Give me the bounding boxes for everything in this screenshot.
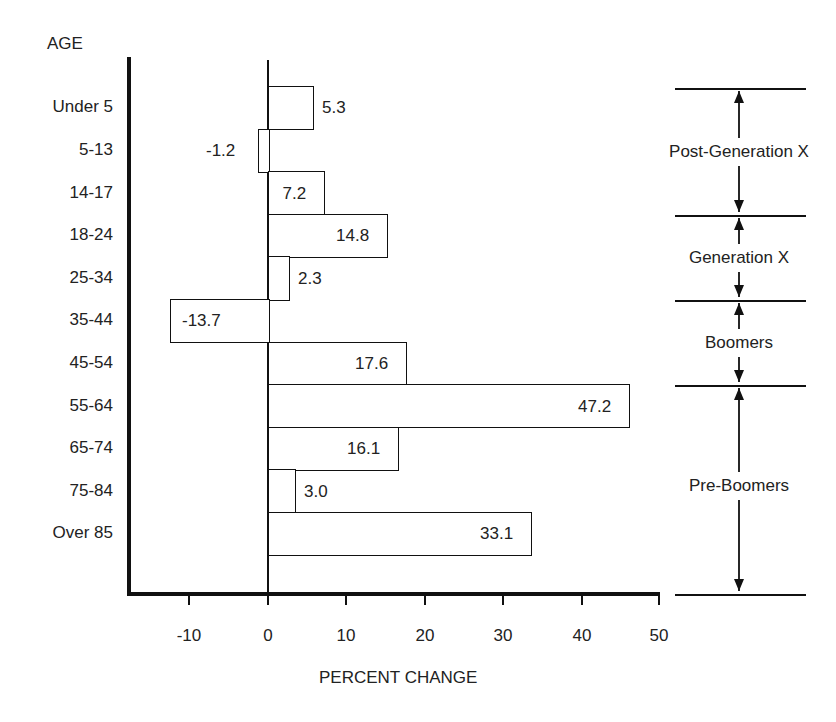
arrow-down-icon bbox=[734, 272, 744, 297]
generation-group-label: Post-Generation X bbox=[654, 143, 824, 160]
generation-group-label: Boomers bbox=[654, 334, 824, 351]
horizontal-bar-chart: AGE PERCENT CHANGE -1001020304050Under 5… bbox=[0, 0, 836, 722]
arrow-down-icon bbox=[734, 500, 744, 591]
arrow-up-icon bbox=[734, 218, 744, 244]
arrow-up-icon bbox=[734, 91, 744, 138]
generation-group-label: Generation X bbox=[654, 249, 824, 266]
arrow-down-icon bbox=[734, 357, 744, 382]
arrow-up-icon bbox=[734, 303, 744, 329]
bracket-arrows bbox=[0, 0, 836, 722]
arrow-up-icon bbox=[734, 388, 744, 472]
generation-group-label: Pre-Boomers bbox=[654, 477, 824, 494]
arrow-down-icon bbox=[734, 166, 744, 212]
